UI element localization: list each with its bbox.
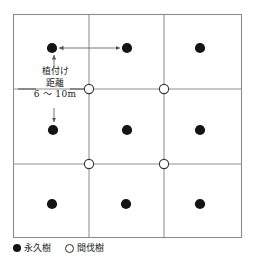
legend-item-permanent-tree: 永久樹 bbox=[13, 243, 51, 253]
permanent-tree-marker bbox=[122, 125, 132, 135]
plot-area bbox=[0, 0, 255, 261]
permanent-tree-marker bbox=[195, 199, 205, 209]
filled-circle-icon bbox=[13, 244, 21, 252]
permanent-tree-marker bbox=[195, 125, 205, 135]
permanent-tree-marker bbox=[195, 43, 205, 53]
permanent-tree-marker bbox=[47, 199, 57, 209]
legend: 永久樹 間伐樹 bbox=[13, 243, 104, 253]
thinning-tree-marker bbox=[159, 159, 168, 168]
thinning-tree-marker bbox=[84, 159, 93, 168]
legend-item-label: 永久樹 bbox=[24, 243, 51, 253]
open-circle-icon bbox=[65, 244, 74, 253]
permanent-tree-marker bbox=[121, 199, 131, 209]
planting-layout-diagram: 植付け 距離 6 〜 10m 永久樹 間伐樹 bbox=[0, 0, 255, 261]
legend-item-thinning-tree: 間伐樹 bbox=[65, 243, 104, 253]
thinning-tree-marker bbox=[159, 84, 168, 93]
thinning-tree-marker bbox=[84, 84, 93, 93]
permanent-tree-marker bbox=[47, 43, 57, 53]
permanent-tree-marker bbox=[122, 43, 132, 53]
permanent-tree-marker bbox=[48, 125, 58, 135]
legend-item-label: 間伐樹 bbox=[77, 243, 104, 253]
